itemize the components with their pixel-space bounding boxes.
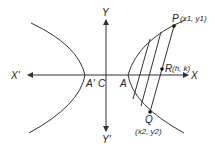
point-p xyxy=(172,24,176,28)
parallel-chord-1 xyxy=(141,32,161,106)
label-vertex-right: A xyxy=(119,78,127,89)
hyperbola-right-branch xyxy=(128,20,185,133)
label-p: P xyxy=(172,13,179,24)
label-vertex-left: A' xyxy=(85,78,96,89)
hyperbola-diagram: X X' Y Y' C A' A P (x1, y1) R (h, k) Q (… xyxy=(0,0,215,147)
label-center: C xyxy=(98,78,106,89)
label-x-pos: X xyxy=(190,70,198,81)
label-y-neg: Y' xyxy=(102,134,112,145)
label-y-pos: Y xyxy=(102,7,110,18)
parallel-chord-2 xyxy=(133,39,150,99)
label-q-coords: (x2, y2) xyxy=(135,127,162,136)
label-x-neg: X' xyxy=(10,70,21,81)
label-r-coords: (h, k) xyxy=(172,64,191,73)
label-p-coords: (x1, y1) xyxy=(180,14,207,23)
label-q: Q xyxy=(145,114,153,125)
hyperbola-left-branch xyxy=(29,23,85,133)
point-r xyxy=(160,67,164,71)
